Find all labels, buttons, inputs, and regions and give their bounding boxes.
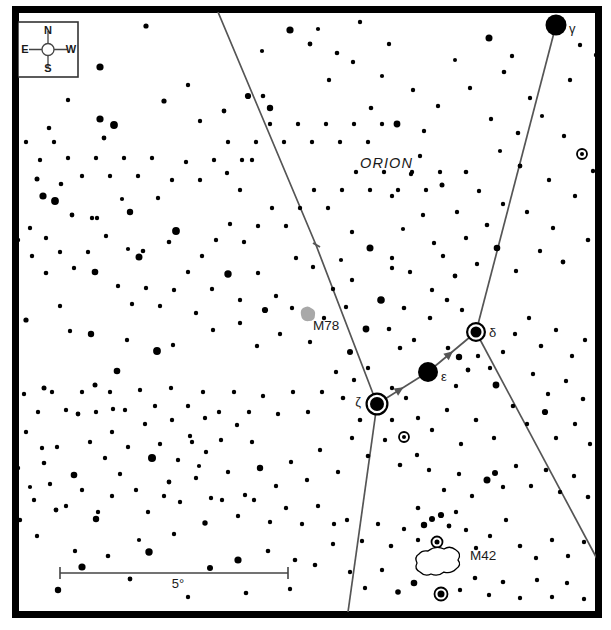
star-dot — [416, 416, 420, 420]
star-dot — [96, 63, 103, 70]
star-dot — [492, 436, 496, 440]
star-dot — [24, 140, 28, 144]
star-dot — [540, 114, 544, 118]
star-dot — [48, 482, 52, 486]
star-dot — [390, 256, 394, 260]
star-dot — [172, 288, 176, 292]
star-dot — [50, 390, 54, 394]
star-dot — [103, 456, 107, 460]
star-dot — [565, 581, 569, 585]
star-dot — [127, 209, 133, 215]
star-dot — [80, 488, 84, 492]
star-dot — [261, 394, 265, 398]
star-dot — [583, 338, 587, 342]
star-dot — [198, 178, 202, 182]
named-star-label-zeta: ζ — [355, 394, 361, 409]
cluster-marker-inner — [435, 540, 440, 545]
star-dot — [447, 524, 452, 529]
star-dot — [387, 42, 391, 46]
star-dot — [476, 354, 480, 358]
star-dot — [445, 298, 450, 303]
named-star-label-delta: δ — [489, 325, 496, 340]
star-dot — [470, 494, 474, 498]
star-dot — [268, 122, 272, 126]
star-dot — [167, 480, 172, 485]
star-dot — [332, 522, 336, 526]
named-star-delta — [471, 327, 482, 338]
star-dot — [145, 548, 152, 555]
star-dot — [148, 454, 156, 462]
star-dot — [172, 532, 176, 536]
star-dot — [561, 260, 566, 265]
star-dot — [143, 23, 148, 28]
star-dot — [59, 182, 64, 187]
star-dot — [335, 51, 340, 56]
star-dot — [255, 344, 259, 348]
star-dot — [308, 42, 313, 47]
star-dot — [581, 397, 586, 402]
star-dot — [354, 170, 358, 174]
star-dot — [68, 329, 72, 333]
named-star-epsilon — [418, 362, 438, 382]
star-dot — [204, 450, 208, 454]
star-dot — [358, 20, 362, 24]
star-dot — [54, 508, 59, 513]
star-dot — [88, 331, 94, 337]
star-dot — [186, 270, 190, 274]
star-dot — [256, 271, 260, 275]
star-dot — [219, 438, 223, 442]
star-dot — [203, 416, 207, 420]
star-dot — [401, 227, 405, 231]
star-dot — [268, 520, 272, 524]
star-dot — [341, 396, 346, 401]
star-dot — [197, 464, 201, 468]
star-dot — [228, 222, 232, 226]
star-dot — [93, 516, 99, 522]
star-dot — [28, 485, 32, 489]
star-dot — [134, 488, 138, 492]
star-dot — [546, 392, 550, 396]
star-dot — [238, 321, 242, 325]
star-dot — [458, 588, 462, 592]
star-dot — [501, 350, 505, 354]
sky-map-canvas: γδεζ M78 M42 ORION 5° N E W — [0, 0, 611, 630]
star-dot — [55, 445, 59, 449]
star-dot — [390, 418, 394, 422]
star-dot — [514, 269, 518, 273]
star-dot — [424, 188, 428, 192]
star-dot — [514, 464, 518, 468]
star-dot — [123, 408, 127, 412]
star-dot — [274, 484, 278, 488]
star-dot — [126, 247, 130, 251]
star-dot — [368, 188, 372, 192]
star-dot — [184, 160, 188, 164]
star-dot — [416, 506, 421, 511]
compass-west-label: W — [66, 43, 77, 55]
star-dot — [66, 156, 70, 160]
scale-bar-label: 5° — [172, 576, 184, 591]
star-dot — [360, 539, 364, 543]
star-dot — [518, 544, 523, 549]
star-dot — [316, 504, 320, 508]
star-dot — [547, 178, 551, 182]
star-dot — [510, 54, 514, 58]
star-dot — [36, 410, 40, 414]
star-dot — [28, 226, 32, 230]
star-dot — [24, 430, 28, 434]
star-dot — [464, 236, 468, 240]
star-dot — [402, 527, 406, 531]
star-dot — [300, 522, 304, 526]
star-dot — [398, 463, 403, 468]
star-dot — [394, 121, 401, 128]
star-dot — [217, 410, 221, 414]
star-dot — [128, 577, 133, 582]
star-dot — [348, 570, 352, 574]
star-dot — [72, 266, 76, 270]
named-star-label-gamma: γ — [569, 21, 576, 36]
named-star-zeta — [370, 397, 384, 411]
star-dot — [578, 43, 582, 47]
star-dot — [111, 407, 115, 411]
star-dot — [32, 498, 36, 502]
star-dot — [390, 386, 394, 390]
star-dot — [94, 156, 98, 160]
